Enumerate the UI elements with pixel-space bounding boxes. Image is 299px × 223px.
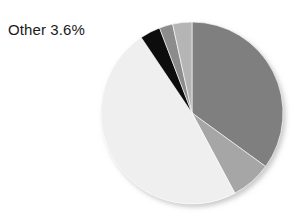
pie-chart-figure: Other 3.6% [0, 0, 299, 223]
pie-slice-group [101, 22, 283, 204]
other-slice-label: Other 3.6% [8, 20, 85, 39]
